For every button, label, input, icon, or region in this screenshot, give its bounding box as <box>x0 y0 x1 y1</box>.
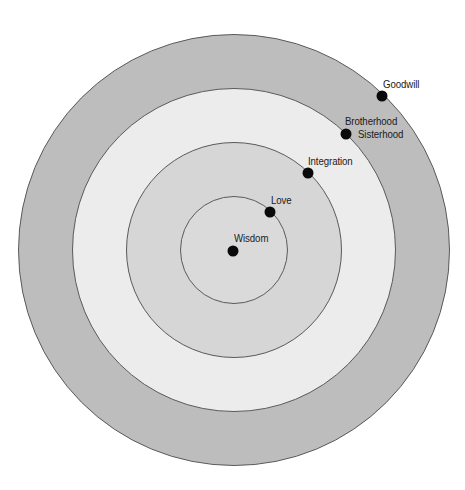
love-label: Love <box>271 194 292 206</box>
concentric-circles-diagram: Wisdom Love Integration Brotherhood Sist… <box>0 0 465 490</box>
goodwill-label: Goodwill <box>383 78 419 90</box>
integration-label: Integration <box>308 155 353 167</box>
integration-dot <box>303 168 314 179</box>
wisdom-dot <box>228 246 239 257</box>
brotherhood-dot <box>341 129 352 140</box>
brotherhood-label: Brotherhood <box>345 115 397 127</box>
love-dot <box>265 207 276 218</box>
goodwill-dot <box>377 91 388 102</box>
wisdom-label: Wisdom <box>234 232 268 244</box>
sisterhood-label: Sisterhood <box>358 128 403 140</box>
